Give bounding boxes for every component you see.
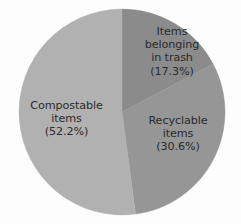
label-line-1: Recyclable [137, 114, 219, 127]
label-line-2: belonging [131, 38, 213, 51]
pie-slice-label-recyclable-items: Recyclable items (30.6%) [137, 114, 219, 154]
label-percent: (30.6%) [137, 140, 219, 153]
label-percent: (17.3%) [131, 65, 213, 78]
label-line-2: items [137, 127, 219, 140]
label-line-1: Items [131, 25, 213, 38]
pie-slice-label-items-belonging-in-trash: Items belonging in trash (17.3%) [131, 25, 213, 78]
label-line-1: Compostable [20, 99, 113, 112]
label-line-3: in trash [131, 51, 213, 64]
pie-chart: Items belonging in trash (17.3%) Recycla… [0, 0, 241, 224]
label-percent: (52.2%) [20, 125, 113, 138]
label-line-2: items [20, 112, 113, 125]
pie-slice-label-compostable-items: Compostable items (52.2%) [20, 99, 113, 139]
